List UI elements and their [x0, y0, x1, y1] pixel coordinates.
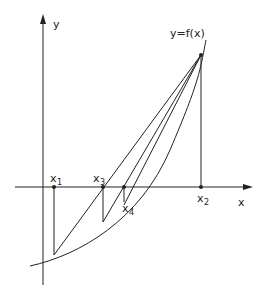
secant-lines: [54, 55, 201, 255]
point-x2: [199, 185, 203, 189]
label-x2: x 2: [197, 192, 209, 207]
label-x3: x 3: [93, 172, 105, 187]
point-top: [199, 53, 203, 57]
y-axis-label: y: [53, 18, 60, 31]
svg-text:1: 1: [57, 178, 62, 187]
label-x1: x 1: [50, 172, 62, 187]
point-x1: [52, 185, 56, 189]
diagram-canvas: y x y=f(x) x 1 x 3 x 4 x 2: [0, 0, 267, 298]
y-axis: [40, 14, 46, 285]
svg-text:x: x: [122, 202, 129, 215]
x-axis-label: x: [238, 196, 245, 209]
label-x4: x 4: [122, 202, 134, 217]
secant-1: [54, 55, 201, 255]
secant-3: [124, 55, 201, 205]
svg-text:2: 2: [204, 198, 209, 207]
svg-text:4: 4: [129, 208, 134, 217]
function-curve: [30, 40, 206, 266]
y-axis-arrow-icon: [40, 14, 46, 24]
svg-text:3: 3: [100, 178, 105, 187]
curve-label: y=f(x): [170, 27, 205, 40]
svg-text:x: x: [93, 172, 100, 185]
x-axis-arrow-icon: [243, 184, 253, 190]
svg-text:x: x: [50, 172, 57, 185]
secant-2: [103, 55, 201, 222]
svg-text:x: x: [197, 192, 204, 205]
point-x4: [122, 185, 126, 189]
